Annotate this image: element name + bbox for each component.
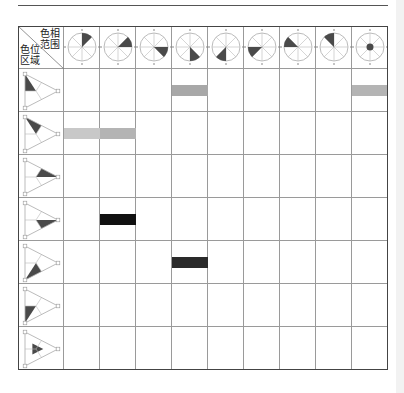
matrix-cell-r1-c8	[316, 69, 352, 112]
match-bar	[172, 85, 208, 96]
row-header-4	[18, 198, 64, 241]
color-region-label-line2: 区域	[20, 55, 44, 66]
matrix-cell-r6-c4	[172, 284, 208, 327]
matrix-cell-r1-c3	[136, 69, 172, 112]
matrix-cell-r3-c4	[172, 155, 208, 198]
matrix-cell-r7-c2	[100, 327, 136, 370]
matrix-cell-r4-c3	[136, 198, 172, 241]
column-header-9	[352, 26, 388, 69]
matrix-cell-r6-c3	[136, 284, 172, 327]
matrix-cell-r5-c9	[352, 241, 388, 284]
matrix-cell-r3-c7	[280, 155, 316, 198]
match-bar	[100, 128, 136, 139]
row-header-3	[18, 155, 64, 198]
matrix-cell-r5-c5	[208, 241, 244, 284]
hue-range-sector-4-icon	[172, 26, 208, 69]
matrix-cell-r4-c6	[244, 198, 280, 241]
hue-range-sector-3-icon	[136, 26, 172, 69]
hue-range-sector-7-icon	[280, 26, 316, 69]
matrix-cell-r1-c1	[64, 69, 100, 112]
column-header-7	[280, 26, 316, 69]
column-header-1	[64, 26, 100, 69]
matrix-cell-r3-c6	[244, 155, 280, 198]
matrix-cell-r7-c4	[172, 327, 208, 370]
matrix-cell-r3-c9	[352, 155, 388, 198]
matrix-cell-r2-c6	[244, 112, 280, 155]
matrix-cell-r2-c8	[316, 112, 352, 155]
corner-header-cell: 色相 范围 色位 区域	[18, 26, 64, 69]
matrix-cell-r3-c2	[100, 155, 136, 198]
matrix-cell-r4-c7	[280, 198, 316, 241]
matrix-cell-r7-c9	[352, 327, 388, 370]
color-region-triangle-1-icon	[18, 69, 64, 112]
matrix-cell-r3-c5	[208, 155, 244, 198]
matrix-cell-r5-c2	[100, 241, 136, 284]
hue-range-sector-8-icon	[316, 26, 352, 69]
matrix-cell-r1-c2	[100, 69, 136, 112]
color-region-label: 色位 区域	[20, 44, 44, 66]
row-header-1	[18, 69, 64, 112]
matrix-cell-r6-c5	[208, 284, 244, 327]
match-bar	[352, 85, 388, 96]
matrix-cell-r7-c1	[64, 327, 100, 370]
matrix-cell-r5-c7	[280, 241, 316, 284]
top-rule-divider	[18, 5, 388, 6]
matrix-cell-r7-c6	[244, 327, 280, 370]
color-region-triangle-3-icon	[18, 155, 64, 198]
column-header-8	[316, 26, 352, 69]
matrix-cell-r7-c3	[136, 327, 172, 370]
matrix-cell-r5-c8	[316, 241, 352, 284]
hue-range-label-line1: 色相	[30, 28, 60, 39]
hue-range-sector-5-icon	[208, 26, 244, 69]
matrix-cell-r6-c1	[64, 284, 100, 327]
row-header-7	[18, 327, 64, 370]
matrix-cell-r7-c7	[280, 327, 316, 370]
row-header-5	[18, 241, 64, 284]
color-region-triangle-7-icon	[18, 327, 64, 370]
column-header-4	[172, 26, 208, 69]
matrix-cell-r5-c3	[136, 241, 172, 284]
hue-range-sector-6-icon	[244, 26, 280, 69]
row-header-6	[18, 284, 64, 327]
matrix-cell-r6-c7	[280, 284, 316, 327]
matrix-cell-r5-c1	[64, 241, 100, 284]
hue-range-sector-2-icon	[100, 26, 136, 69]
matrix-cell-r2-c5	[208, 112, 244, 155]
column-header-5	[208, 26, 244, 69]
matrix-cell-r1-c6	[244, 69, 280, 112]
color-region-label-line1: 色位	[20, 44, 44, 55]
matrix-cell-r7-c8	[316, 327, 352, 370]
matrix-cell-r4-c4	[172, 198, 208, 241]
matrix-cell-r3-c1	[64, 155, 100, 198]
matrix-cell-r4-c8	[316, 198, 352, 241]
matrix-cell-r6-c6	[244, 284, 280, 327]
column-header-3	[136, 26, 172, 69]
column-header-6	[244, 26, 280, 69]
matrix-cell-r2-c7	[280, 112, 316, 155]
page-edge-strip	[396, 0, 404, 393]
row-header-2	[18, 112, 64, 155]
match-bar	[172, 257, 208, 268]
matrix-cell-r1-c7	[280, 69, 316, 112]
matrix-cell-r2-c3	[136, 112, 172, 155]
match-bar	[64, 128, 100, 139]
matrix-cell-r2-c4	[172, 112, 208, 155]
match-bar	[100, 214, 136, 225]
hue-range-center-dot-icon	[352, 26, 388, 69]
color-region-triangle-6-icon	[18, 284, 64, 327]
hue-range-sector-1-icon	[64, 26, 100, 69]
matrix-cell-r4-c1	[64, 198, 100, 241]
color-region-triangle-2-icon	[18, 112, 64, 155]
matrix-cell-r6-c9	[352, 284, 388, 327]
matrix-cell-r4-c5	[208, 198, 244, 241]
matrix-cell-r6-c2	[100, 284, 136, 327]
matrix-cell-r3-c8	[316, 155, 352, 198]
matrix-cell-r6-c8	[316, 284, 352, 327]
matrix-cell-r5-c6	[244, 241, 280, 284]
color-region-triangle-5-icon	[18, 241, 64, 284]
matrix-cell-r3-c3	[136, 155, 172, 198]
column-header-2	[100, 26, 136, 69]
color-region-triangle-4-icon	[18, 198, 64, 241]
matrix-cell-r7-c5	[208, 327, 244, 370]
matrix-cell-r4-c9	[352, 198, 388, 241]
